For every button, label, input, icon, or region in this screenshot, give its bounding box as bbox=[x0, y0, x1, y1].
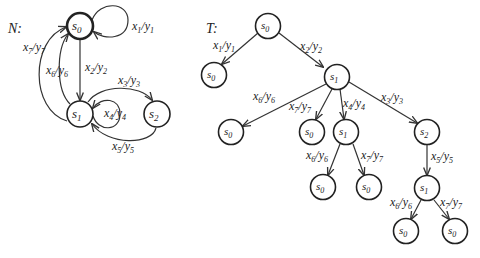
tlabel-x6y6-c: x6/y6 bbox=[389, 195, 412, 211]
graph-n-edge-labels: x1/y1 x2/y2 x3/y3 x4/y4 x5/y5 x6/y6 x7/y… bbox=[22, 19, 154, 155]
tnode-t11: s0 bbox=[443, 219, 468, 244]
tnode-t2: s1 bbox=[325, 65, 350, 90]
edge-s0-s0 bbox=[92, 6, 128, 37]
tree-t: T: s0 s0 s1 s0 s0 s1 s2 s0 s0 s1 s0 bbox=[202, 14, 468, 244]
tlabel-x5y5: x5/y5 bbox=[430, 149, 453, 165]
diagram-svg: N: s0 s1 bbox=[0, 0, 480, 258]
tnode-t6: s2 bbox=[415, 120, 440, 145]
diagram-canvas: N: s0 s1 bbox=[0, 0, 480, 258]
tnode-t3: s0 bbox=[219, 120, 244, 145]
node-n-s2: s2 bbox=[144, 101, 170, 127]
tnode-t1: s0 bbox=[202, 63, 227, 88]
tlabel-x6y6-b: x6/y6 bbox=[305, 148, 328, 164]
tedge-t9-t10 bbox=[411, 200, 421, 219]
label-x3y3: x3/y3 bbox=[117, 73, 140, 89]
node-n-s1: s1 bbox=[67, 101, 93, 127]
tlabel-x3y3: x3/y3 bbox=[380, 90, 403, 106]
tlabel-x6y6-a: x6/y6 bbox=[252, 89, 275, 105]
label-x4y4: x4/y4 bbox=[103, 106, 126, 122]
graph-n-title: N: bbox=[7, 21, 22, 36]
tnode-t0: s0 bbox=[256, 14, 281, 39]
tree-t-title: T: bbox=[206, 21, 218, 36]
tlabel-x2y2: x2/y2 bbox=[299, 39, 322, 55]
tnode-t10: s0 bbox=[394, 219, 419, 244]
label-x1y1: x1/y1 bbox=[131, 19, 154, 35]
tlabel-x1y1: x1/y1 bbox=[212, 38, 235, 54]
tnode-t4: s0 bbox=[300, 120, 325, 145]
tlabel-x7y7-b: x7/y7 bbox=[360, 148, 384, 164]
tlabel-x7y7-a: x7/y7 bbox=[288, 99, 312, 115]
graph-n: N: s0 s1 bbox=[7, 6, 170, 155]
tnode-t9: s1 bbox=[415, 176, 440, 201]
tedge-t2-t4 bbox=[316, 89, 332, 119]
tnode-t5: s1 bbox=[334, 120, 359, 145]
tedge-t5-t7 bbox=[328, 144, 340, 175]
label-x2y2: x2/y2 bbox=[84, 60, 107, 76]
label-x6y6: x6/y6 bbox=[45, 63, 68, 79]
label-x7y7: x7/y7 bbox=[22, 40, 46, 56]
label-x5y5: x5/y5 bbox=[111, 139, 134, 155]
tnode-t7: s0 bbox=[311, 175, 336, 200]
node-n-s0: s0 bbox=[67, 13, 93, 39]
tlabel-x4y4: x4/y4 bbox=[342, 96, 365, 112]
tlabel-x7y7-c: x7/y7 bbox=[439, 195, 463, 211]
tnode-t8: s0 bbox=[357, 175, 382, 200]
edge-s1-s2 bbox=[88, 88, 152, 102]
